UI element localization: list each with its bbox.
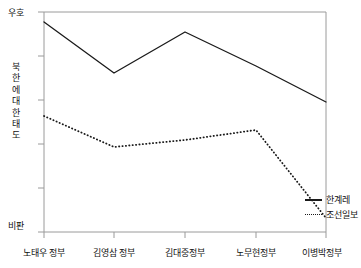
y-axis-bottom-label: 비판	[8, 219, 24, 232]
legend-dotted-line-icon	[305, 210, 322, 219]
y-axis-title: 북한에 대한 태도	[9, 62, 23, 142]
chart-legend: 한계레 조선일보	[305, 192, 358, 222]
x-tick-label-1: 김영삼 정부	[93, 246, 136, 259]
legend-label-chosun: 조선일보	[326, 208, 358, 221]
series-line-chosun	[44, 116, 326, 218]
legend-solid-line-icon	[305, 195, 322, 204]
series-line-hankyoreh	[44, 22, 326, 102]
x-tick-label-4: 이병박정부	[302, 246, 342, 259]
y-axis-top-label: 우호	[8, 6, 24, 19]
y-axis-ticks	[38, 12, 44, 232]
legend-label-hankyoreh: 한계레	[326, 193, 350, 206]
chart-plot-area	[0, 0, 361, 268]
x-axis-ticks	[44, 232, 326, 238]
plot-frame	[44, 12, 326, 232]
chart-container: 우호 비판 북한에 대한 태도 노태우 정부 김영삼 정부 김대중정부 노무현정…	[0, 0, 361, 268]
x-tick-label-3: 노무현정부	[236, 246, 276, 259]
x-tick-label-2: 김대중정부	[165, 246, 205, 259]
x-tick-label-0: 노태우 정부	[23, 246, 66, 259]
legend-item-chosun: 조선일보	[305, 207, 358, 222]
legend-item-hankyoreh: 한계레	[305, 192, 358, 207]
